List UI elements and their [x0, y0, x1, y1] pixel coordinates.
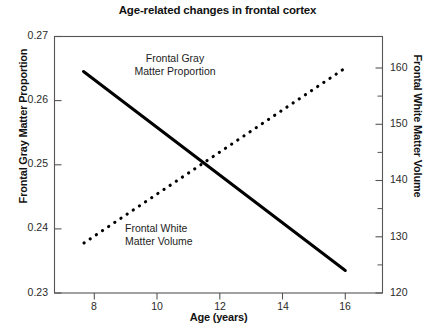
y-tick-label-0-26: 0.26	[2, 93, 48, 105]
right-axis-major-ticks	[376, 68, 383, 293]
y-tick-label-0-27: 0.27	[2, 29, 48, 41]
y2-tick-label-130: 130	[390, 230, 435, 242]
x-tick-label-12: 12	[200, 300, 240, 312]
y-tick-label-0-25: 0.25	[2, 157, 48, 169]
y-axis-title-left: Frontal Gray Matter Proportion	[17, 11, 29, 241]
x-axis-ticks	[94, 293, 345, 300]
plot-area	[0, 0, 435, 332]
y2-tick-label-140: 140	[390, 173, 435, 185]
y2-tick-label-150: 150	[390, 117, 435, 129]
y-tick-label-0-24: 0.24	[2, 221, 48, 233]
x-axis-title: Age (years)	[54, 311, 383, 323]
annotation-white-matter: Frontal White Matter Volume	[125, 222, 255, 247]
x-tick-label-14: 14	[263, 300, 303, 312]
annotation-gray-matter: Frontal Gray Matter Proportion	[110, 52, 240, 77]
x-tick-label-16: 16	[325, 300, 365, 312]
x-tick-label-8: 8	[74, 300, 114, 312]
left-axis-ticks	[55, 37, 62, 294]
chart-figure: Age-related changes in frontal cortex	[0, 0, 435, 332]
y-tick-label-0-23: 0.23	[2, 286, 48, 298]
x-tick-label-10: 10	[137, 300, 177, 312]
y2-tick-label-120: 120	[390, 286, 435, 298]
y2-tick-label-160: 160	[390, 61, 435, 73]
white-matter-line	[84, 68, 345, 243]
